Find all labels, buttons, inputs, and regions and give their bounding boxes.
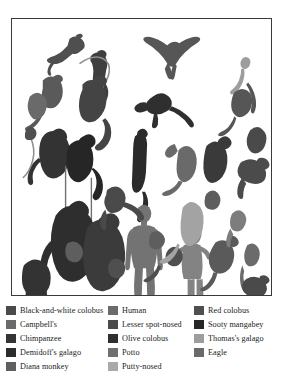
silhouette-potto-lower (200, 236, 239, 291)
legend: Black-and-white colobus Campbell's Chimp… (4, 303, 277, 375)
silhouette-small-quadruped-bottom-right (242, 275, 269, 295)
silhouette-monkey-small-topleft (28, 93, 47, 120)
legend-item: Olive colobus (108, 331, 194, 345)
legend-item: Lesser spot-nosed (108, 317, 194, 331)
legend-swatch (108, 306, 118, 315)
legend-item: Campbell's (6, 317, 106, 331)
silhouette-monkey-dark-band3 (203, 136, 231, 183)
legend-label: Olive colobus (122, 334, 168, 343)
legend-label: Campbell's (20, 320, 57, 329)
legend-label: Red colobus (208, 306, 249, 315)
legend-item: Sooty mangabey (194, 317, 280, 331)
legend-item: Diana monkey (6, 360, 106, 374)
legend-label: Putty-nosed (122, 362, 162, 371)
legend-label: Black-and-white colobus (20, 306, 103, 315)
legend-column-1: Black-and-white colobus Campbell's Chimp… (6, 303, 106, 374)
legend-label: Sooty mangabey (208, 320, 264, 329)
legend-item: Putty-nosed (108, 360, 194, 374)
legend-swatch (6, 334, 16, 343)
silhouette-potto-right (237, 158, 269, 199)
silhouette-galago-top-right (230, 57, 250, 95)
legend-label: Potto (122, 348, 140, 357)
legend-swatch (108, 362, 118, 371)
legend-swatch (194, 306, 204, 315)
legend-label: Demidoff's galago (20, 348, 81, 357)
legend-column-3: Red colobus Sooty mangabey Thomas's gala… (194, 303, 280, 360)
legend-label: Chimpanzee (20, 334, 61, 343)
legend-label: Eagle (208, 348, 227, 357)
silhouette-mangabey-left (66, 134, 103, 200)
legend-item: Eagle (194, 346, 280, 360)
silhouette-monkey-topright-corner (247, 127, 267, 154)
legend-item: Black-and-white colobus (6, 303, 106, 317)
legend-swatch (194, 334, 204, 343)
legend-item: Chimpanzee (6, 331, 106, 345)
legend-swatch (6, 362, 16, 371)
legend-label: Human (122, 306, 146, 315)
legend-column-2: Human Lesser spot-nosed Olive colobus Po… (108, 303, 194, 374)
legend-swatch (108, 348, 118, 357)
silhouette-monkey-pale-band3 (162, 144, 197, 196)
silhouette-canvas (12, 19, 271, 295)
silhouette-monkey-gliding-center (134, 93, 194, 128)
legend-swatch (6, 348, 16, 357)
legend-swatch (108, 320, 118, 329)
silhouette-eagle (143, 37, 200, 80)
legend-item: Potto (108, 346, 194, 360)
silhouette-panel (11, 18, 272, 296)
legend-swatch (108, 334, 118, 343)
legend-swatch (6, 320, 16, 329)
legend-item: Thomas's galago (194, 331, 280, 345)
figure-plate: Black-and-white colobus Campbell's Chimp… (0, 0, 281, 375)
legend-swatch (194, 348, 204, 357)
legend-item: Demidoff's galago (6, 346, 106, 360)
legend-swatch (194, 320, 204, 329)
silhouette-monkey-leaping-top (47, 34, 85, 76)
legend-swatch (6, 306, 16, 315)
legend-item: Red colobus (194, 303, 280, 317)
legend-item: Human (108, 303, 194, 317)
legend-label: Diana monkey (20, 362, 69, 371)
silhouette-monkey-right-band2 (218, 83, 256, 137)
legend-label: Lesser spot-nosed (122, 320, 182, 329)
legend-label: Thomas's galago (208, 334, 264, 343)
